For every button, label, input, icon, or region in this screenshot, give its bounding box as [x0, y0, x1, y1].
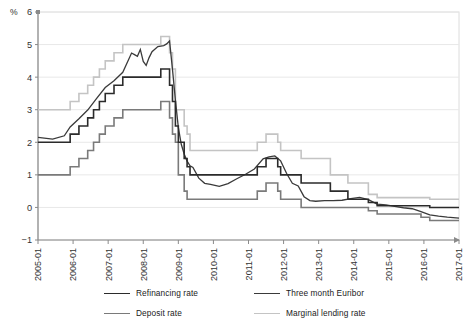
- grid-lines: [38, 12, 459, 207]
- legend-item-refinancing-rate[interactable]: Refinancing rate: [104, 288, 254, 298]
- series-line: [38, 41, 459, 218]
- y-axis-unit-label: %: [10, 7, 18, 17]
- y-tick-label: 2: [27, 138, 32, 148]
- x-tick-label: 2013-01: [314, 248, 324, 281]
- chart-legend: Refinancing rate Three month Euribor Dep…: [104, 283, 444, 323]
- legend-swatch-deposit-rate: [104, 313, 130, 314]
- x-tick-label: 2012-01: [279, 248, 289, 281]
- legend-item-deposit-rate[interactable]: Deposit rate: [104, 308, 254, 318]
- data-series: [38, 36, 459, 220]
- x-tick-label: 2008-01: [139, 248, 149, 281]
- x-tick-label: 2009-01: [174, 248, 184, 281]
- legend-item-marginal-lending-rate[interactable]: Marginal lending rate: [254, 308, 444, 318]
- y-tick-labels: −10123456: [22, 7, 32, 245]
- legend-swatch-three-month-euribor: [254, 293, 280, 294]
- x-tick-label: 2005-01: [33, 248, 43, 281]
- legend-swatch-refinancing-rate: [104, 293, 130, 294]
- legend-label-deposit-rate: Deposit rate: [136, 308, 182, 318]
- y-tick-label: −1: [22, 235, 32, 245]
- x-tick-labels: 2005-012006-012007-012008-012009-012010-…: [33, 248, 464, 281]
- chart-container: −10123456 2005-012006-012007-012008-0120…: [0, 0, 468, 326]
- x-tick-label: 2016-01: [419, 248, 429, 281]
- legend-item-three-month-euribor[interactable]: Three month Euribor: [254, 288, 444, 298]
- legend-label-refinancing-rate: Refinancing rate: [136, 288, 198, 298]
- x-tick-label: 2014-01: [349, 248, 359, 281]
- x-tick-label: 2017-01: [454, 248, 464, 281]
- y-tick-label: 4: [27, 73, 32, 83]
- legend-label-three-month-euribor: Three month Euribor: [286, 288, 364, 298]
- x-tick-label: 2007-01: [104, 248, 114, 281]
- series-line: [38, 69, 459, 207]
- x-axis: [38, 237, 460, 244]
- x-tick-label: 2010-01: [209, 248, 219, 281]
- x-tick-label: 2015-01: [384, 248, 394, 281]
- y-tick-label: 3: [27, 105, 32, 115]
- legend-swatch-marginal-lending-rate: [254, 313, 280, 314]
- y-tick-label: 1: [27, 170, 32, 180]
- y-tick-label: 6: [27, 7, 32, 17]
- x-tick-label: 2006-01: [68, 248, 78, 281]
- y-axis-unit-label: %: [10, 7, 18, 17]
- y-tick-label: 5: [27, 40, 32, 50]
- line-chart-plot: −10123456 2005-012006-012007-012008-0120…: [0, 0, 468, 326]
- series-line: [38, 102, 459, 221]
- x-tick-label: 2011-01: [244, 248, 254, 280]
- legend-label-marginal-lending-rate: Marginal lending rate: [286, 308, 366, 318]
- y-tick-label: 0: [27, 203, 32, 213]
